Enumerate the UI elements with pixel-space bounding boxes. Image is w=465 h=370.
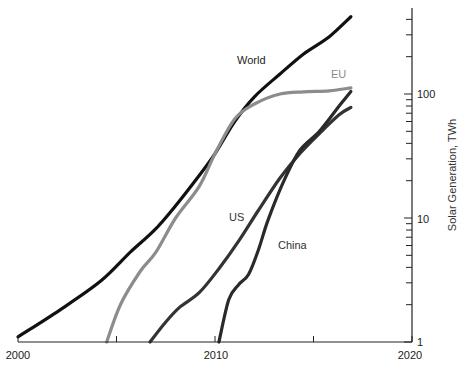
series-label-eu: EU <box>331 68 346 80</box>
series-label-us: US <box>229 211 244 223</box>
solar-generation-chart: 2000 2010 2020 1 10 100 Solar Generation… <box>0 0 465 370</box>
y-axis-title: Solar Generation, TWh <box>446 119 458 231</box>
x-tick-label-2020: 2020 <box>398 349 422 361</box>
x-tick-label-2010: 2010 <box>204 349 228 361</box>
series-line-world <box>18 17 351 337</box>
series-label-world: World <box>237 54 266 66</box>
axes <box>18 8 412 342</box>
x-tick-label-2000: 2000 <box>6 349 30 361</box>
plot-lines <box>18 17 351 342</box>
y-tick-label-1: 1 <box>417 336 423 348</box>
y-tick-label-10: 10 <box>417 213 429 225</box>
y-tick-label-100: 100 <box>417 88 435 100</box>
y-ticks <box>404 19 412 342</box>
series-line-us <box>150 107 351 342</box>
x-ticks <box>18 336 412 342</box>
series-label-china: China <box>278 239 308 251</box>
